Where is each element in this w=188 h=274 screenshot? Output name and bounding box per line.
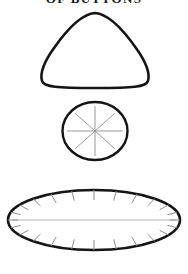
figure-spoked-circle-button bbox=[63, 102, 128, 160]
figures-canvas bbox=[0, 0, 188, 274]
figure-ticked-ellipse-button bbox=[8, 190, 180, 250]
figure-rounded-triangle-button bbox=[42, 13, 149, 88]
figure-layer bbox=[0, 0, 188, 274]
circle-spokes bbox=[67, 106, 123, 156]
illustration-plate: OF BUTTONS bbox=[0, 0, 188, 274]
rounded-triangle-outline bbox=[42, 13, 149, 88]
